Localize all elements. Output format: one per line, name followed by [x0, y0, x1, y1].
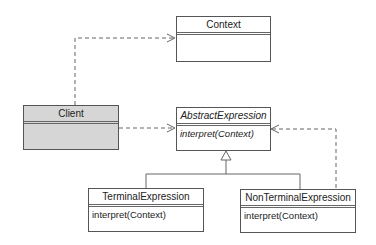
- operation: interpret(Context): [241, 208, 355, 224]
- class-name: AbstractExpression: [177, 108, 270, 126]
- operation: interpret(Context): [177, 126, 270, 142]
- class-name: Client: [24, 106, 118, 124]
- class-name: Context: [177, 17, 270, 35]
- class-name: NonTerminalExpression: [241, 190, 355, 208]
- class-name: TerminalExpression: [89, 189, 203, 207]
- class-terminal-expression[interactable]: TerminalExpression interpret(Context): [88, 188, 204, 232]
- client-context-dependency: [75, 38, 175, 105]
- generalization-line: [146, 160, 300, 189]
- class-client[interactable]: Client: [23, 105, 119, 150]
- nonterminal-abstract-dependency: [271, 129, 336, 188]
- operation: interpret(Context): [89, 207, 203, 223]
- class-abstract-expression[interactable]: AbstractExpression interpret(Context): [176, 107, 271, 151]
- class-context[interactable]: Context: [176, 16, 271, 62]
- generalization-triangle-icon: [221, 151, 231, 160]
- class-nonterminal-expression[interactable]: NonTerminalExpression interpret(Context): [240, 189, 356, 233]
